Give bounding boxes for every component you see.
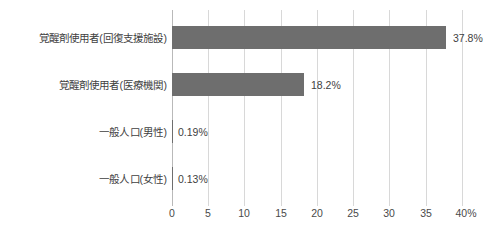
value-label: 0.19% xyxy=(178,126,208,138)
plot-area: 37.8% 18.2% 0.19% 0.13% xyxy=(172,10,462,200)
value-label: 37.8% xyxy=(453,32,483,44)
xtick-label: 40% xyxy=(455,207,476,219)
xtick-label: 10 xyxy=(238,207,250,219)
xtick-label: 30 xyxy=(383,207,395,219)
xtick-label: 35 xyxy=(420,207,432,219)
category-label: 覚醒剤使用者(医療機関) xyxy=(0,79,167,91)
category-label: 覚醒剤使用者(回復支援施設) xyxy=(0,32,167,44)
value-label: 18.2% xyxy=(311,79,341,91)
xtick-label: 25 xyxy=(347,207,359,219)
bar-segment xyxy=(172,167,173,190)
bar-segment xyxy=(172,120,173,143)
xtick-label: 0 xyxy=(169,207,175,219)
xtick-label: 20 xyxy=(311,207,323,219)
bar-segment xyxy=(172,73,304,96)
bar-chart: 覚醒剤使用者(回復支援施設) 覚醒剤使用者(医療機関) 一般人口(男性) 一般人… xyxy=(0,0,501,236)
category-label: 一般人口(男性) xyxy=(0,126,167,138)
value-label: 0.13% xyxy=(178,173,208,185)
xtick-label: 5 xyxy=(205,207,211,219)
bar-segment xyxy=(172,26,446,49)
category-label: 一般人口(女性) xyxy=(0,173,167,185)
xtick-label: 15 xyxy=(275,207,287,219)
